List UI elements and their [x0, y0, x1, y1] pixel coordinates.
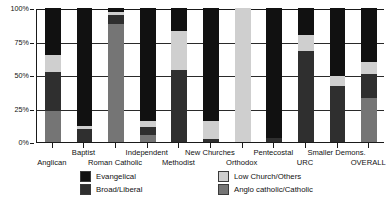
- bar-column: [235, 9, 251, 142]
- y-axis: 0%25%50%75%100%: [0, 9, 34, 143]
- stacked-bar-chart: 0%25%50%75%100% AnglicanBaptistRoman Cat…: [0, 0, 392, 206]
- x-axis-tick-label: OVERALL: [351, 159, 386, 167]
- bar-column: [108, 9, 124, 142]
- bar-segment: [108, 24, 124, 142]
- bar-column: [266, 9, 282, 142]
- bar-segment: [77, 8, 93, 126]
- bar-segment: [235, 8, 251, 142]
- x-axis-tick-label: Orthodox: [226, 159, 257, 167]
- chart-legend: EvangelicalLow Church/OthersBroad/Libera…: [80, 171, 330, 201]
- x-axis-tick-label: Roman Catholic: [88, 159, 142, 167]
- legend-label: Broad/Liberal: [96, 185, 142, 194]
- stacked-bar: [45, 9, 61, 142]
- bar-column: [77, 9, 93, 142]
- bar-group: [37, 9, 384, 142]
- y-axis-tick-label: 0%: [19, 139, 29, 146]
- bar-segment: [298, 35, 314, 51]
- x-axis-tick-label: Methodist: [162, 159, 195, 167]
- bar-segment: [108, 12, 124, 15]
- bar-column: [330, 9, 346, 142]
- x-axis-tick-mark: [305, 143, 306, 148]
- bar-segment: [203, 8, 219, 121]
- stacked-bar: [298, 9, 314, 142]
- bar-segment: [171, 8, 187, 31]
- stacked-bar: [108, 9, 124, 142]
- y-axis-tick-mark: [30, 9, 34, 10]
- bar-column: [298, 9, 314, 142]
- bar-segment: [361, 8, 377, 62]
- y-axis-tick-label: 100%: [11, 5, 29, 12]
- y-axis-tick-mark: [30, 43, 34, 44]
- bar-segment: [203, 139, 219, 142]
- bar-segment: [108, 8, 124, 12]
- legend-label: Low Church/Others: [234, 172, 301, 181]
- y-axis-tick-mark: [30, 143, 34, 144]
- bar-column: [45, 9, 61, 142]
- x-axis-tick-label: Baptist: [72, 149, 95, 157]
- bar-segment: [361, 98, 377, 142]
- bar-segment: [266, 8, 282, 138]
- x-axis-tick-mark: [368, 143, 369, 148]
- y-axis-tick-mark: [30, 110, 34, 111]
- bar-segment: [140, 8, 156, 121]
- bar-column: [140, 9, 156, 142]
- bar-segment: [45, 8, 61, 55]
- y-axis-tick-label: 25%: [15, 106, 29, 113]
- bar-segment: [361, 74, 377, 98]
- x-axis-tick-mark: [115, 143, 116, 148]
- x-axis-tick-label: New Churches: [185, 149, 235, 157]
- x-axis-tick-label: Smaller Demons.: [307, 149, 365, 157]
- legend-swatch: [80, 171, 91, 182]
- y-axis-tick-label: 50%: [15, 72, 29, 79]
- bar-column: [171, 9, 187, 142]
- y-axis-tick-label: 75%: [15, 39, 29, 46]
- bar-segment: [361, 62, 377, 74]
- bar-segment: [77, 129, 93, 142]
- bar-segment: [298, 8, 314, 35]
- stacked-bar: [77, 9, 93, 142]
- bar-segment: [45, 111, 61, 142]
- bar-segment: [330, 8, 346, 76]
- bar-segment: [298, 51, 314, 142]
- x-axis-tick-mark: [52, 143, 53, 148]
- bar-segment: [171, 31, 187, 70]
- legend-swatch: [218, 184, 229, 195]
- stacked-bar: [140, 9, 156, 142]
- stacked-bar: [171, 9, 187, 142]
- bar-segment: [140, 121, 156, 128]
- x-axis-tick-label: Pentecostal: [253, 149, 293, 157]
- bar-segment: [330, 86, 346, 142]
- bar-segment: [140, 135, 156, 142]
- legend-label: Anglo catholic/Catholic: [234, 185, 313, 194]
- stacked-bar: [361, 9, 377, 142]
- legend-swatch: [218, 171, 229, 182]
- bar-segment: [77, 126, 93, 129]
- x-axis-tick-mark: [178, 143, 179, 148]
- plot-area: [36, 9, 384, 143]
- bar-column: [361, 9, 377, 142]
- x-axis-tick-label: Anglican: [37, 159, 66, 167]
- stacked-bar: [203, 9, 219, 142]
- y-axis-tick-mark: [30, 76, 34, 77]
- bar-segment: [108, 15, 124, 24]
- stacked-bar: [235, 9, 251, 142]
- x-axis-tick-mark: [242, 143, 243, 148]
- bar-segment: [45, 72, 61, 111]
- bar-column: [203, 9, 219, 142]
- bar-segment: [330, 76, 346, 85]
- stacked-bar: [330, 9, 346, 142]
- legend-swatch: [80, 184, 91, 195]
- bar-segment: [171, 70, 187, 142]
- bar-segment: [45, 55, 61, 72]
- legend-label: Evangelical: [96, 172, 136, 181]
- x-axis-tick-label: URC: [297, 159, 313, 167]
- bar-segment: [266, 138, 282, 142]
- bar-segment: [203, 121, 219, 140]
- bar-segment: [140, 127, 156, 135]
- stacked-bar: [266, 9, 282, 142]
- x-axis-tick-label: Independent: [126, 149, 168, 157]
